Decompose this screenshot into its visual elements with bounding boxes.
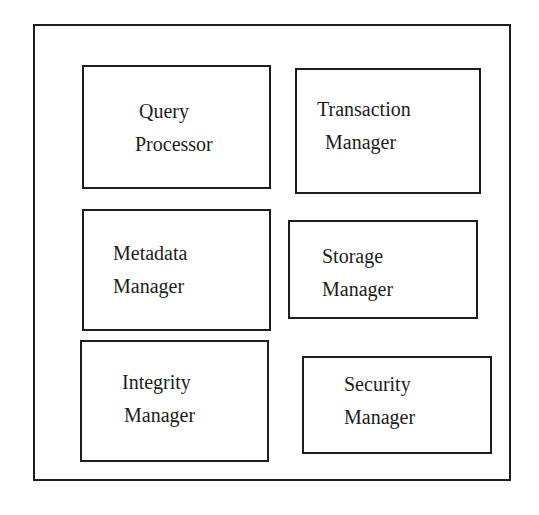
query-processor-line-1: Query	[139, 95, 213, 128]
security-manager-line-1: Security	[344, 368, 415, 401]
storage-manager-line-1: Storage	[322, 240, 393, 273]
metadata-manager-label: Metadata Manager	[113, 237, 187, 303]
security-manager-label: Security Manager	[344, 368, 415, 434]
integrity-manager-label: Integrity Manager	[122, 366, 195, 432]
integrity-manager-box: Integrity Manager	[80, 340, 269, 462]
security-manager-box: Security Manager	[302, 356, 492, 454]
metadata-manager-line-1: Metadata	[113, 237, 187, 270]
transaction-manager-line-2: Manager	[325, 126, 411, 159]
metadata-manager-box: Metadata Manager	[82, 209, 271, 331]
integrity-manager-line-1: Integrity	[122, 366, 195, 399]
transaction-manager-line-1: Transaction	[317, 93, 411, 126]
query-processor-box: Query Processor	[82, 65, 271, 189]
security-manager-line-2: Manager	[344, 401, 415, 434]
query-processor-label: Query Processor	[139, 95, 213, 161]
metadata-manager-line-2: Manager	[113, 270, 187, 303]
storage-manager-label: Storage Manager	[322, 240, 393, 306]
transaction-manager-box: Transaction Manager	[295, 68, 481, 194]
storage-manager-box: Storage Manager	[288, 220, 478, 319]
query-processor-line-2: Processor	[135, 128, 213, 161]
transaction-manager-label: Transaction Manager	[317, 93, 411, 159]
integrity-manager-line-2: Manager	[124, 399, 195, 432]
storage-manager-line-2: Manager	[322, 273, 393, 306]
